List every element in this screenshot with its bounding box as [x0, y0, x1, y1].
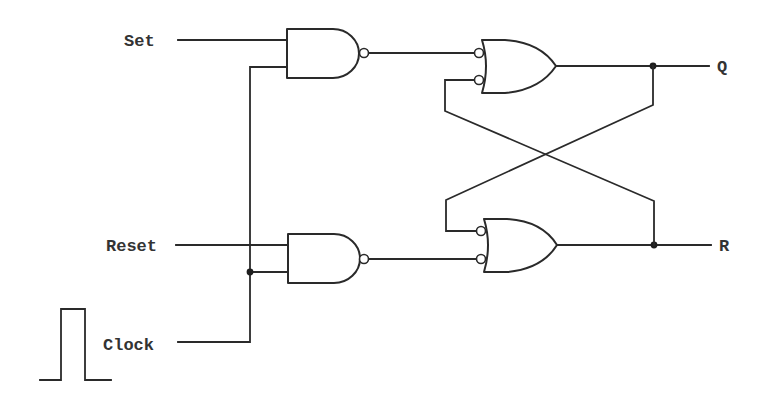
or-top-input2-bubble: [475, 76, 484, 85]
set-input-label: Set: [124, 32, 155, 51]
clock-wire: [178, 67, 287, 342]
clock-input-label: Clock: [103, 336, 154, 355]
q-output-label: Q: [717, 58, 727, 77]
or-gate-top: [475, 40, 557, 93]
or-top-input1-bubble: [475, 49, 484, 58]
or-bottom-input1-bubble: [477, 227, 486, 236]
nand-gate-top: [287, 29, 369, 78]
nand-gate-bottom: [288, 234, 369, 283]
nand-top-inverter-bubble: [360, 49, 369, 58]
clock-pulse-icon: [40, 309, 111, 380]
or-bottom-input2-bubble: [477, 255, 486, 264]
output-wires: [556, 63, 711, 249]
r-output-label: R: [719, 237, 730, 256]
input-wires: [176, 40, 288, 342]
clock-junction-dot: [247, 269, 254, 276]
nand-bottom-inverter-bubble: [360, 255, 369, 264]
or-gate-bottom: [477, 219, 558, 272]
feedback-r-to-top-or: [445, 80, 654, 245]
reset-input-label: Reset: [106, 237, 157, 256]
feedback-q-to-bottom-or: [446, 66, 653, 231]
sr-flipflop-diagram: Set Reset Clock Q R: [0, 0, 776, 406]
feedback-wires: [445, 66, 654, 245]
